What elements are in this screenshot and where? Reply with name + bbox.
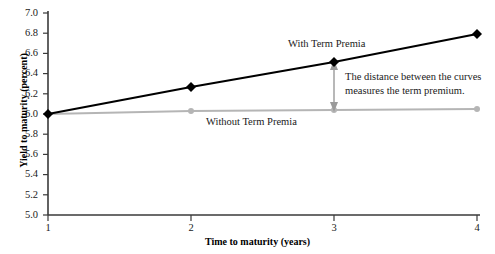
- annotation-line-1: The distance between the curves: [345, 70, 495, 84]
- y-tick-label: 5.0: [8, 209, 38, 220]
- x-tick-label: 1: [38, 222, 58, 233]
- yield-curve-chart: 7.0 6.8 6.6 6.4 6.2 6.0 5.8 5.6 5.4 5.2 …: [0, 0, 495, 254]
- series-label-without-term-premia: Without Term Premia: [206, 116, 297, 127]
- x-tick-label: 3: [324, 222, 344, 233]
- y-tick-label: 7.0: [8, 7, 38, 18]
- x-tick-label: 2: [181, 222, 201, 233]
- plot-area: [0, 0, 495, 254]
- annotation-line-2: measures the term premium.: [345, 84, 495, 98]
- x-axis-title: Time to maturity (years): [205, 236, 310, 247]
- series-label-with-term-premia: With Term Premia: [288, 38, 365, 49]
- series-line-without-term-premia: [48, 109, 477, 114]
- x-tick-marks: [48, 215, 477, 221]
- y-axis-title: Yield to maturity (percent): [18, 41, 29, 181]
- term-premium-arrow-icon: [330, 60, 338, 112]
- y-tick-label: 6.8: [8, 27, 38, 38]
- x-tick-label: 4: [467, 222, 487, 233]
- y-tick-label: 5.2: [8, 189, 38, 200]
- term-premium-annotation: The distance between the curves measures…: [345, 70, 495, 98]
